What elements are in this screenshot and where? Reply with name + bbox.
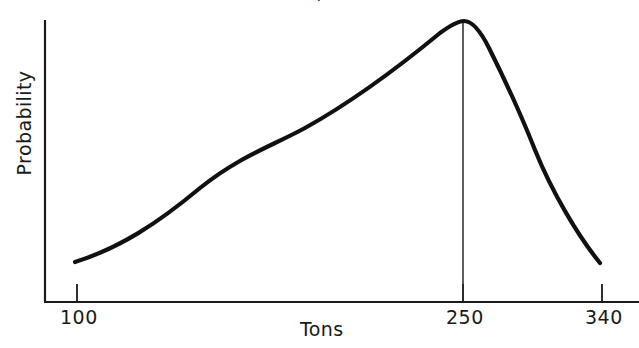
chart-figure: r 100 250 340 Tons Probability xyxy=(0,0,639,348)
x-tick-label-340: 340 xyxy=(585,306,623,328)
y-axis-label: Probability xyxy=(13,63,35,183)
x-tick-label-100: 100 xyxy=(60,306,98,328)
x-axis-label: Tons xyxy=(300,318,344,340)
plot-area xyxy=(0,0,639,348)
probability-curve xyxy=(75,21,600,263)
x-tick-label-250: 250 xyxy=(446,306,484,328)
